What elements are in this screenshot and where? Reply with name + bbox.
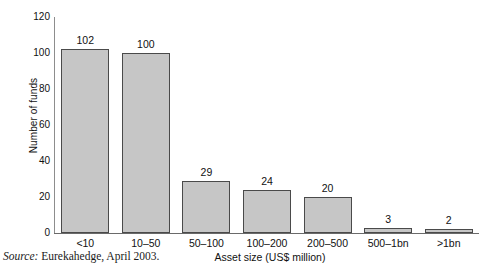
bar — [243, 190, 291, 233]
bar — [304, 197, 352, 233]
bar-value-label: 20 — [298, 183, 358, 194]
bar-value-label: 3 — [358, 214, 418, 225]
bar — [425, 229, 473, 233]
bar-value-label: 24 — [237, 176, 297, 187]
x-axis-tick-label: 10–50 — [111, 237, 181, 249]
x-axis-tick-label: 200–500 — [293, 237, 363, 249]
source-label: Source: — [3, 250, 38, 262]
x-axis-tick-label: 500–1bn — [353, 237, 423, 249]
bar-value-label: 100 — [116, 39, 176, 50]
bar — [182, 181, 230, 233]
bar — [364, 228, 412, 233]
bar — [61, 49, 109, 233]
source-note: Source: Eurekahedge, April 2003. — [3, 250, 159, 262]
source-text: Eurekahedge, April 2003. — [41, 250, 159, 262]
x-axis-tick-label: >1bn — [414, 237, 484, 249]
bar-chart-figure: Number of funds 020406080100120 102<1010… — [0, 0, 487, 268]
bar — [122, 53, 170, 233]
bar-value-label: 29 — [176, 167, 236, 178]
bar-value-label: 102 — [55, 35, 115, 46]
x-axis-title: Asset size (US$ million) — [150, 251, 390, 263]
bar-value-label: 2 — [419, 215, 479, 226]
x-axis-tick-label: 50–100 — [171, 237, 241, 249]
plot-area: 102<1010010–502950–10024100–20020200–500… — [0, 0, 487, 268]
x-axis-tick-label: 100–200 — [232, 237, 302, 249]
x-axis-tick-label: <10 — [50, 237, 120, 249]
